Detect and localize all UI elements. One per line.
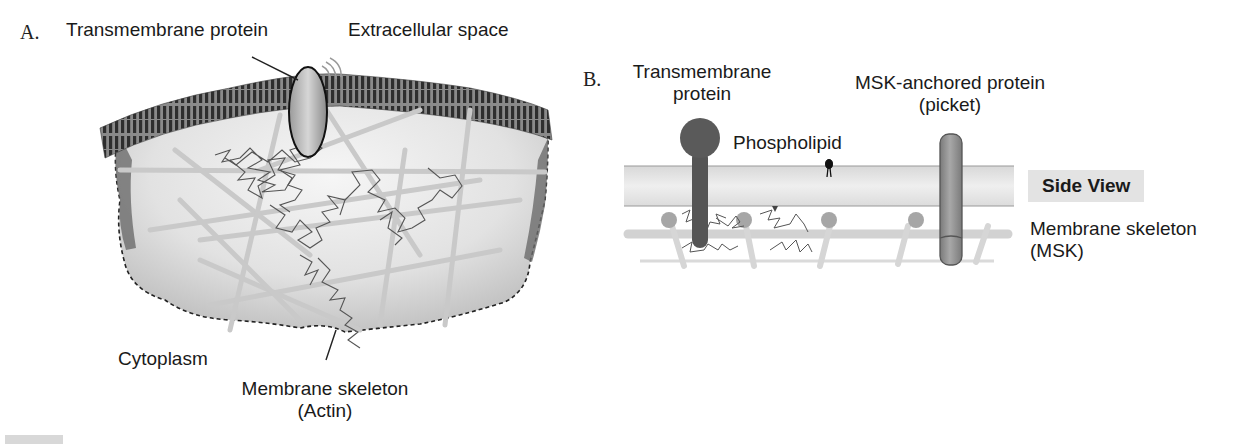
side-view-badge: Side View	[1028, 170, 1144, 202]
label-membrane-skeleton-msk: Membrane skeleton (MSK)	[1030, 218, 1197, 262]
label-transmembrane-protein-b: Transmembrane protein	[622, 61, 782, 105]
label-msk-anchored-protein: MSK-anchored protein (picket)	[810, 72, 1090, 116]
label-transmembrane-line2: protein	[622, 83, 782, 105]
panel-b-letter: B.	[583, 68, 601, 91]
picket-protein-icon	[940, 134, 962, 265]
label-msk-line2: (MSK)	[1030, 240, 1197, 262]
label-msk-anchored-line1: MSK-anchored protein	[810, 72, 1090, 94]
label-msk-line1: Membrane skeleton	[1030, 218, 1197, 240]
label-phospholipid: Phospholipid	[733, 132, 842, 154]
label-msk-anchored-line2: (picket)	[810, 94, 1090, 116]
caption-strip	[5, 435, 63, 444]
label-transmembrane-line1: Transmembrane	[622, 61, 782, 83]
